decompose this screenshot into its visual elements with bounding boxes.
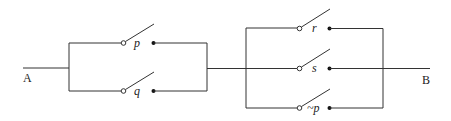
switch-p: p bbox=[69, 24, 207, 50]
switch-label-not-p: ~p bbox=[307, 101, 320, 115]
switch-label-q: q bbox=[134, 84, 140, 98]
switch-not-p: ~p bbox=[246, 89, 383, 115]
open-contact-icon bbox=[297, 26, 302, 31]
open-contact-icon bbox=[121, 41, 126, 46]
switch-s: s bbox=[297, 49, 383, 75]
switch-label-s: s bbox=[312, 61, 317, 75]
open-contact-icon bbox=[297, 106, 302, 111]
terminal-b-label: B bbox=[422, 73, 430, 87]
switch-label-p: p bbox=[133, 36, 140, 50]
terminal-a-label: A bbox=[23, 71, 32, 85]
open-contact-icon bbox=[297, 66, 302, 71]
switching-circuit-diagram: A p q r s bbox=[0, 0, 451, 121]
open-contact-icon bbox=[121, 89, 126, 94]
switch-q: q bbox=[69, 72, 207, 98]
switch-label-r: r bbox=[312, 21, 317, 35]
switch-r: r bbox=[246, 9, 383, 35]
